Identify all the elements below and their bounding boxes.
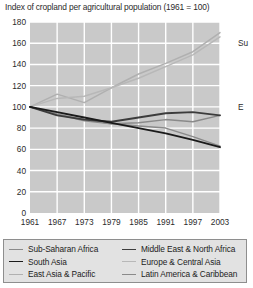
legend-label: Middle East & North Africa	[141, 245, 235, 253]
y-tick-label: 60	[17, 144, 27, 154]
legend-label: Sub-Saharan Africa	[28, 245, 98, 253]
x-tick-label: 1979	[102, 217, 121, 226]
x-tick-label: 1985	[129, 217, 148, 226]
plot-background	[30, 22, 220, 213]
legend-label: South Asia	[28, 258, 67, 266]
legend-item: Latin America & Caribbean	[122, 268, 237, 281]
x-tick-label: 1973	[75, 217, 94, 226]
plot-svg: 0204060801001201401601801961196719731979…	[0, 14, 253, 226]
y-tick-label: 20	[17, 187, 27, 197]
plot-area: 0204060801001201401601801961196719731979…	[0, 14, 253, 226]
chart-figure: Index of cropland per agricultural popul…	[0, 0, 253, 288]
legend-label: East Asia & Pacific	[28, 270, 95, 278]
y-tick-label: 100	[12, 102, 26, 112]
legend-item: Europe & Central Asia	[122, 256, 237, 269]
legend-label: Latin America & Caribbean	[141, 270, 237, 278]
y-tick-label: 160	[12, 38, 26, 48]
x-tick-label: 1967	[48, 217, 67, 226]
legend-swatch-line-icon	[9, 261, 23, 262]
y-tick-label: 140	[12, 59, 26, 69]
y-tick-label: 80	[17, 123, 27, 133]
legend-swatch-line-icon	[122, 249, 136, 250]
legend-item: Middle East & North Africa	[122, 243, 237, 256]
legend-column-left: Sub-Saharan AfricaSouth AsiaEast Asia & …	[9, 243, 98, 281]
legend-item: East Asia & Pacific	[9, 268, 98, 281]
legend-swatch-line-icon	[9, 274, 23, 275]
y-tick-label: 120	[12, 81, 26, 91]
legend-swatch-line-icon	[122, 261, 136, 262]
x-tick-label: 1997	[184, 217, 203, 226]
legend-swatch-line-icon	[9, 249, 23, 250]
x-tick-label: 2003	[211, 217, 230, 226]
edge-annotation-label: Su	[238, 38, 248, 48]
y-tick-label: 40	[17, 166, 27, 176]
legend-item: South Asia	[9, 256, 98, 269]
legend-label: Europe & Central Asia	[141, 258, 221, 266]
edge-annotation-label: E	[238, 102, 244, 112]
chart-title: Index of cropland per agricultural popul…	[5, 2, 209, 12]
y-tick-label: 180	[12, 17, 26, 27]
legend-column-right: Middle East & North AfricaEurope & Centr…	[122, 243, 237, 281]
x-tick-label: 1961	[21, 217, 40, 226]
legend-item: Sub-Saharan Africa	[9, 243, 98, 256]
x-tick-label: 1991	[156, 217, 175, 226]
chart-legend: Sub-Saharan AfricaSouth AsiaEast Asia & …	[3, 239, 247, 283]
legend-swatch-line-icon	[122, 274, 136, 275]
